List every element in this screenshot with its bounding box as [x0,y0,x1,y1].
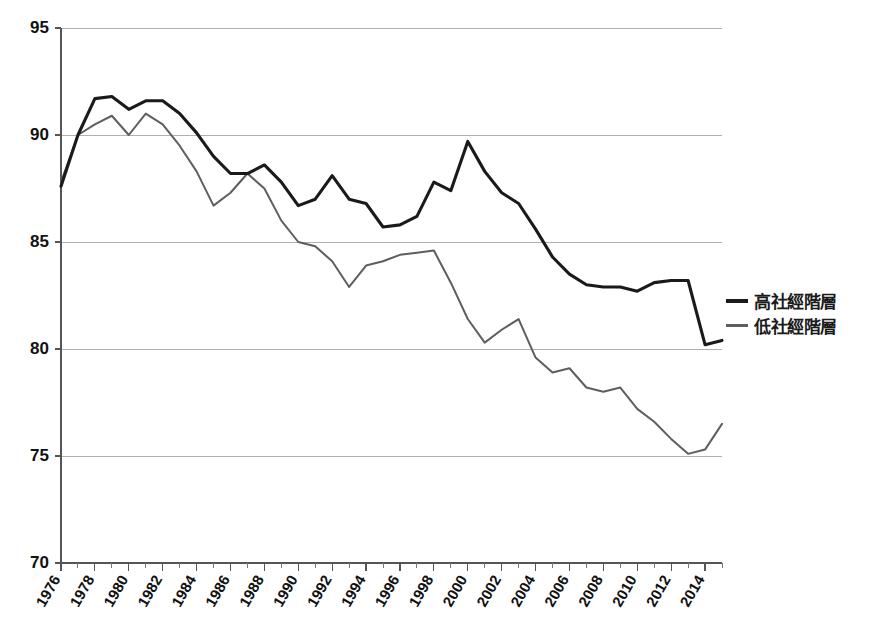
x-tick-label-2012: 2012 [642,572,673,609]
x-tick-label-2010: 2010 [608,572,639,609]
gridlines [61,28,722,563]
y-tick-label-80: 80 [30,339,49,358]
x-tick-label-2004: 2004 [507,571,539,609]
x-tick-label-1992: 1992 [303,572,334,609]
y-tick-label-95: 95 [30,18,49,37]
y-tick-label-90: 90 [30,125,49,144]
x-tick-label-2002: 2002 [473,572,504,609]
legend-item-low: 低社經階層 [726,313,866,338]
x-tick-label-1994: 1994 [337,571,369,609]
chart-legend: 高社經階層 低社經階層 [726,288,866,338]
x-tick-label-1990: 1990 [269,572,300,609]
x-tick-label-1984: 1984 [168,571,200,609]
x-tick-label-1976: 1976 [32,572,63,609]
legend-label-low: 低社經階層 [754,313,837,338]
legend-label-high: 高社經階層 [754,288,837,313]
x-tick-label-1998: 1998 [405,572,436,609]
y-tick-label-70: 70 [30,553,49,572]
x-tick-label-2000: 2000 [439,572,470,609]
x-tick-label-1996: 1996 [371,572,402,609]
x-tick-label-2014: 2014 [676,571,708,609]
x-tick-label-2008: 2008 [575,572,606,609]
axes [61,28,722,563]
legend-swatch-low-icon [726,324,748,327]
x-axis-tick-labels: 1976197819801982198419861988199019921994… [32,571,708,609]
x-tick-label-1980: 1980 [100,572,131,609]
x-tick-label-1986: 1986 [202,572,233,609]
y-tick-label-75: 75 [30,446,49,465]
x-tick-label-1982: 1982 [134,572,165,609]
y-tick-label-85: 85 [30,232,49,251]
series-line-high-ses [61,96,722,344]
y-axis-tick-labels: 707580859095 [30,18,49,572]
legend-item-high: 高社經階層 [726,288,866,313]
axis-ticks [55,28,722,571]
x-tick-label-2006: 2006 [541,572,572,609]
series-line-low-ses [61,114,722,454]
x-tick-label-1978: 1978 [66,572,97,609]
x-tick-label-1988: 1988 [236,572,267,609]
chart-container: 707580859095 197619781980198219841986198… [0,0,869,629]
data-series [61,96,722,453]
legend-swatch-high-icon [726,299,748,303]
